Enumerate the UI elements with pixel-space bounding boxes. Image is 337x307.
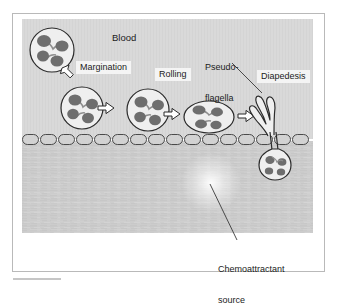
endothelial-cell — [167, 135, 183, 145]
label-pseudoflagella: Pseudo- flagella — [205, 41, 239, 124]
label-margination: Margination — [76, 61, 131, 74]
label-pseudoflagella-line1: Pseudo- — [205, 62, 239, 72]
label-pseudoflagella-line2: flagella — [205, 93, 239, 103]
endothelial-cell — [293, 135, 309, 145]
marginating-leukocyte — [61, 87, 103, 129]
endothelial-cell — [149, 135, 165, 145]
label-chemoattractant-line1: Chemoattractant — [218, 264, 285, 274]
endothelial-cell — [95, 135, 111, 145]
endothelial-cell — [113, 135, 129, 145]
endothelial-cell — [23, 135, 39, 145]
endothelial-cell — [41, 135, 57, 145]
migrated-cell-body — [259, 149, 291, 180]
label-diapedesis: Diapedesis — [257, 70, 310, 83]
endothelial-cell — [59, 135, 75, 145]
endothelial-cell — [239, 135, 255, 145]
endothelial-cell — [203, 135, 219, 145]
caption-rule — [13, 278, 61, 280]
label-rolling: Rolling — [155, 68, 191, 81]
label-chemoattractant-source: Chemoattractant source — [218, 243, 285, 307]
endothelial-cell — [77, 135, 93, 145]
endothelial-cell — [131, 135, 147, 145]
label-chemoattractant-line2: source — [218, 295, 285, 305]
adhering-leukocyte — [127, 89, 169, 131]
label-blood: Blood — [112, 33, 136, 44]
endothelial-cell — [185, 135, 201, 145]
chemoattractant-glow — [181, 153, 241, 213]
endothelial-cell — [221, 135, 237, 145]
